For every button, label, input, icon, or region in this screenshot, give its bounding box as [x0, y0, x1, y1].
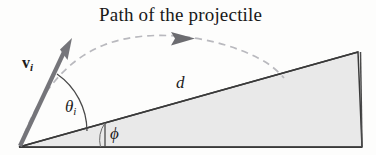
- phi-angle-label: ϕ: [110, 125, 119, 142]
- velocity-subscript: i: [30, 61, 33, 73]
- theta-angle-label: θi: [65, 98, 76, 117]
- initial-velocity-label: vi: [22, 55, 33, 73]
- velocity-symbol: v: [22, 54, 30, 71]
- distance-label: d: [176, 74, 185, 91]
- trajectory-arrow-icon: [171, 32, 195, 46]
- theta-subscript: i: [73, 105, 76, 117]
- diagram-title: Path of the projectile: [99, 5, 262, 24]
- projectile-incline-diagram: Path of the projectile vi θi ϕ d: [0, 0, 376, 155]
